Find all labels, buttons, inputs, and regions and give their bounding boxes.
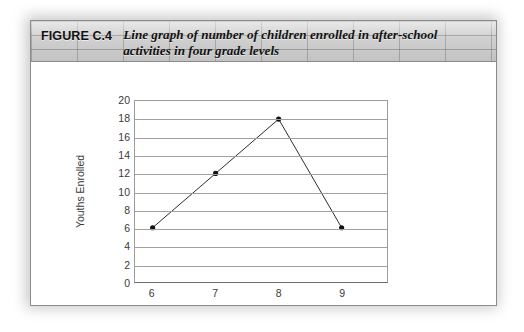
y-axis-title: Youths Enrolled	[73, 100, 87, 283]
figure-number-label: FIGURE C.4	[41, 29, 112, 43]
x-tick-label: 9	[339, 287, 345, 299]
y-tick-label: 0	[124, 277, 130, 289]
y-tick-label: 16	[118, 131, 130, 143]
y-tick-label: 10	[118, 186, 130, 198]
gridline	[135, 211, 387, 212]
plot-frame	[134, 100, 388, 283]
x-tick-label: 7	[212, 287, 218, 299]
y-tick-label: 4	[124, 240, 130, 252]
x-axis-tick-labels: 6789	[134, 287, 388, 301]
y-tick-label: 8	[124, 204, 130, 216]
figure-caption: Line graph of number of children enrolle…	[123, 27, 437, 59]
chart-area: Youths Enrolled 20181614121086420 6789 G…	[31, 62, 496, 305]
y-tick-label: 14	[118, 149, 130, 161]
x-tick-label: 6	[149, 287, 155, 299]
y-tick-label: 18	[118, 112, 130, 124]
y-tick-label: 6	[124, 222, 130, 234]
y-tick-label: 20	[118, 94, 130, 106]
x-tick-label: 8	[276, 287, 282, 299]
y-axis-tick-labels: 20181614121086420	[106, 100, 130, 283]
gridline	[135, 138, 387, 139]
gridline	[135, 119, 387, 120]
figure-caption-line-1: Line graph of number of children enrolle…	[123, 27, 437, 43]
line-series-svg	[135, 101, 387, 282]
figure-caption-line-2: activities in four grade levels	[123, 43, 437, 59]
figure-card: FIGURE C.4 Line graph of number of child…	[30, 20, 497, 306]
gridline	[135, 229, 387, 230]
gridline	[135, 247, 387, 248]
y-tick-label: 12	[118, 167, 130, 179]
figure-header-band: FIGURE C.4 Line graph of number of child…	[31, 21, 496, 62]
gridline	[135, 174, 387, 175]
gridline	[135, 193, 387, 194]
y-tick-label: 2	[124, 259, 130, 271]
gridline	[135, 266, 387, 267]
gridline	[135, 156, 387, 157]
